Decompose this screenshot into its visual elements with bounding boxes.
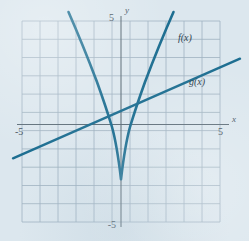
graph-figure: 5 -5 -5 5 y x f(x) g(x) [0,0,249,241]
y-axis-bottom-tick-label: -5 [108,219,116,230]
x-axis-right-tick-label: 5 [218,126,223,137]
y-axis-name-label: y [124,5,129,15]
coordinate-plane-svg: 5 -5 -5 5 y x f(x) g(x) [0,0,249,241]
curve-g-label: g(x) [189,76,206,88]
curve-f-label: f(x) [178,32,193,44]
x-axis-left-tick-label: -5 [15,126,23,137]
x-axis-name-label: x [231,114,236,124]
y-axis-top-tick-label: 5 [109,12,114,23]
